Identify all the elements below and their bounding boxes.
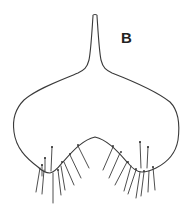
panel-label: B — [121, 30, 132, 45]
plate-drawing — [0, 0, 189, 220]
illustration: B — [0, 0, 189, 220]
left-setae — [36, 144, 89, 203]
plate-outline — [13, 15, 178, 174]
right-setae — [103, 141, 155, 198]
